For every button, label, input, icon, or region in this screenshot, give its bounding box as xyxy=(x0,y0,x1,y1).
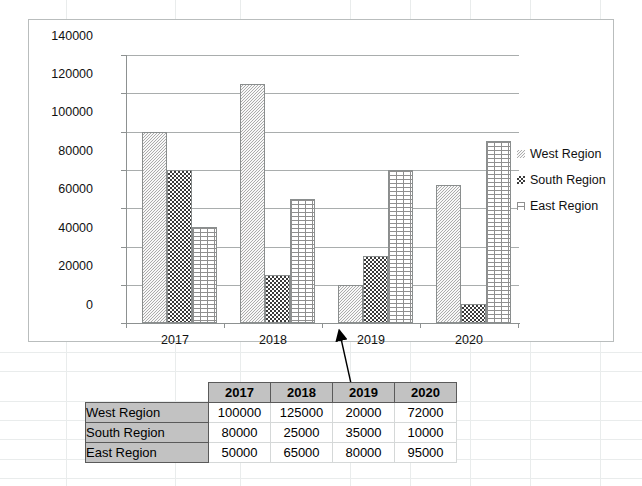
column-header-2017[interactable]: 2017 xyxy=(209,383,271,403)
y-axis-line xyxy=(126,55,127,324)
legend-label: South Region xyxy=(530,173,606,187)
bar-east-region-2020[interactable] xyxy=(486,141,511,323)
gridline xyxy=(126,55,519,56)
bar-west-region-2017[interactable] xyxy=(142,132,167,323)
cell-south-2017[interactable]: 80000 xyxy=(209,423,271,443)
bar-south-region-2018[interactable] xyxy=(265,275,290,323)
bar-south-region-2017[interactable] xyxy=(167,170,192,323)
table-corner-cell xyxy=(86,383,209,403)
cell-east-2020[interactable]: 95000 xyxy=(395,443,457,463)
cell-east-2017[interactable]: 50000 xyxy=(209,443,271,463)
column-header-2019[interactable]: 2019 xyxy=(333,383,395,403)
table-row: East Region 50000 65000 80000 95000 xyxy=(86,443,457,463)
east-pattern-swatch-icon xyxy=(517,202,525,210)
data-table[interactable]: 2017 2018 2019 2020 West Region 100000 1… xyxy=(85,382,457,463)
cell-east-2018[interactable]: 65000 xyxy=(271,443,333,463)
cell-west-2017[interactable]: 100000 xyxy=(209,403,271,423)
y-tick-label: 120000 xyxy=(29,67,93,81)
y-tick-label: 60000 xyxy=(29,182,93,196)
legend-item-south-region[interactable]: South Region xyxy=(517,167,606,193)
legend-item-west-region[interactable]: West Region xyxy=(517,141,606,167)
y-tick-label: 80000 xyxy=(29,144,93,158)
plot-area: 2017 2018 2019 2020 xyxy=(126,55,519,323)
chart-object[interactable]: 140000 120000 100000 80000 60000 40000 2… xyxy=(28,19,614,342)
bar-east-region-2017[interactable] xyxy=(192,227,217,323)
legend-label: West Region xyxy=(530,147,601,161)
bar-east-region-2019[interactable] xyxy=(388,170,413,323)
bar-west-region-2020[interactable] xyxy=(436,185,461,323)
legend-item-east-region[interactable]: East Region xyxy=(517,193,606,219)
spreadsheet-canvas: 140000 120000 100000 80000 60000 40000 2… xyxy=(0,0,642,486)
y-tick-label: 140000 xyxy=(29,29,93,43)
x-tick-label-2018: 2018 xyxy=(259,333,287,347)
legend-label: East Region xyxy=(530,199,598,213)
x-tick-label-2020: 2020 xyxy=(455,333,483,347)
bar-south-region-2019[interactable] xyxy=(363,256,388,323)
x-axis-line xyxy=(126,323,520,324)
cell-south-2018[interactable]: 25000 xyxy=(271,423,333,443)
y-tick-label: 20000 xyxy=(29,259,93,273)
column-header-2020[interactable]: 2020 xyxy=(395,383,457,403)
cell-west-2019[interactable]: 20000 xyxy=(333,403,395,423)
row-header-west-region[interactable]: West Region xyxy=(86,403,209,423)
gridline xyxy=(126,132,519,133)
cell-south-2019[interactable]: 35000 xyxy=(333,423,395,443)
cell-west-2018[interactable]: 125000 xyxy=(271,403,333,423)
x-tick-label-2017: 2017 xyxy=(161,333,189,347)
table-row: West Region 100000 125000 20000 72000 xyxy=(86,403,457,423)
cell-west-2020[interactable]: 72000 xyxy=(395,403,457,423)
table-header-row: 2017 2018 2019 2020 xyxy=(86,383,457,403)
table-row: South Region 80000 25000 35000 10000 xyxy=(86,423,457,443)
y-tick-label: 100000 xyxy=(29,105,93,119)
bar-east-region-2018[interactable] xyxy=(290,199,315,323)
row-header-east-region[interactable]: East Region xyxy=(86,443,209,463)
row-header-south-region[interactable]: South Region xyxy=(86,423,209,443)
y-tick-label: 40000 xyxy=(29,221,93,235)
bar-south-region-2020[interactable] xyxy=(461,304,486,323)
gridline xyxy=(126,93,519,94)
chart-legend: West Region South Region East Region xyxy=(517,141,606,219)
column-header-2018[interactable]: 2018 xyxy=(271,383,333,403)
bar-west-region-2018[interactable] xyxy=(240,84,265,323)
south-pattern-swatch-icon xyxy=(517,176,525,184)
cell-south-2020[interactable]: 10000 xyxy=(395,423,457,443)
west-pattern-swatch-icon xyxy=(517,150,525,158)
cell-east-2019[interactable]: 80000 xyxy=(333,443,395,463)
y-tick-label: 0 xyxy=(29,298,93,312)
bar-west-region-2019[interactable] xyxy=(338,285,363,323)
